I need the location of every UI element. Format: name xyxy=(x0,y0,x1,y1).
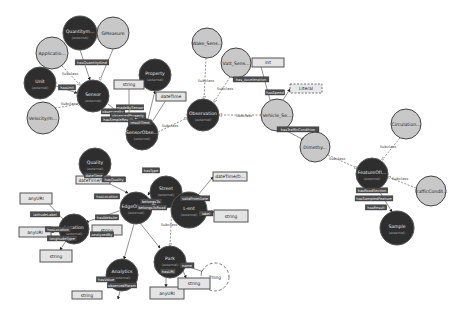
svg-text:Park: Park xyxy=(165,256,175,261)
class-node-vatt-sensor[interactable]: Vatt_Sens... xyxy=(221,48,251,78)
property-label[interactable]: validFromDate xyxy=(180,196,210,201)
svg-text:(external): (external) xyxy=(389,231,406,235)
property-label[interactable]: hasWebsite xyxy=(95,215,119,220)
svg-text:Analytics: Analytics xyxy=(112,269,133,274)
svg-text:belongsToRoad: belongsToRoad xyxy=(139,206,166,210)
svg-text:dateTime: dateTime xyxy=(86,174,104,178)
property-label[interactable]: belongsTo xyxy=(140,199,161,204)
property-label[interactable]: hasSpeed xyxy=(265,90,284,95)
class-node-circulation[interactable]: Circulation... xyxy=(391,109,421,139)
subclass-label: Subclass xyxy=(198,78,215,83)
property-label[interactable]: hasType xyxy=(142,168,159,173)
property-label[interactable]: hasURI xyxy=(160,269,175,274)
property-label[interactable]: belongsToRoad xyxy=(137,205,167,210)
svg-text:madeBySensor: madeBySensor xyxy=(116,106,144,110)
subclass-label: Subclass xyxy=(392,176,409,181)
svg-text:Applicatio...: Applicatio... xyxy=(38,51,65,56)
datatype-string[interactable]: string xyxy=(40,250,72,262)
class-node-gmeasure[interactable]: GMeasure xyxy=(97,17,129,49)
property-label[interactable]: hasSampledFeature xyxy=(355,196,393,201)
class-nodes: Quantitym...(external) GMeasure Applicat… xyxy=(24,16,448,291)
svg-text:hasSpeed: hasSpeed xyxy=(266,91,284,95)
class-node-quantity[interactable]: Quantitym...(external) xyxy=(63,16,97,50)
property-label[interactable]: has_Acceleration xyxy=(233,77,269,82)
property-label[interactable]: hasResult xyxy=(365,205,386,210)
svg-text:Circulation...: Circulation... xyxy=(392,122,421,127)
svg-text:L-ent: L-ent xyxy=(183,206,195,211)
class-node-velocity[interactable]: Velocity/m... xyxy=(27,102,59,134)
svg-text:latitudeLabel: latitudeLabel xyxy=(33,213,56,217)
property-label[interactable]: hasTrafficCondition xyxy=(277,127,319,132)
svg-text:validFromDate: validFromDate xyxy=(182,197,209,201)
svg-text:(external): (external) xyxy=(147,78,164,82)
subclass-labels: Subclass Subclass Subclass Subclass Subc… xyxy=(61,71,409,227)
svg-text:string: string xyxy=(81,293,94,298)
svg-text:(external): (external) xyxy=(66,232,83,236)
datatype-datetime[interactable]: dateTime xyxy=(156,92,186,101)
property-label[interactable]: hasLocation xyxy=(94,194,120,199)
datatype-string[interactable]: string xyxy=(114,80,144,89)
svg-text:label: label xyxy=(202,212,211,216)
datatype-string-event[interactable]: string xyxy=(214,210,248,222)
class-node-feature-of-interest[interactable]: FeatureOfI...(external) xyxy=(356,158,388,190)
svg-text:(external): (external) xyxy=(195,118,212,122)
svg-text:hasSampledFeature: hasSampledFeature xyxy=(356,197,392,201)
class-node-observation[interactable]: Observation(external) xyxy=(187,99,219,131)
property-label[interactable]: name xyxy=(180,263,194,268)
svg-text:FeatureOfI...: FeatureOfI... xyxy=(358,170,386,175)
svg-text:(external): (external) xyxy=(32,86,49,90)
svg-text:anyURI: anyURI xyxy=(27,230,43,235)
class-node-application[interactable]: Applicatio... xyxy=(36,37,68,69)
svg-text:Observation: Observation xyxy=(189,111,217,116)
svg-text:hasQuality: hasQuality xyxy=(104,178,124,182)
property-label[interactable]: hasLocation xyxy=(45,227,71,232)
svg-text:Velocity/m...: Velocity/m... xyxy=(29,116,57,121)
datatype-datetime-event[interactable]: dateTime/D... xyxy=(213,172,247,181)
property-label[interactable]: hasValue xyxy=(96,277,115,282)
property-label[interactable]: analyzedBy xyxy=(90,232,114,237)
property-label[interactable]: hasQuality xyxy=(102,177,126,182)
svg-text:belongsTo: belongsTo xyxy=(142,200,160,204)
class-node-traffic-condition[interactable]: TrafficCondit... xyxy=(413,176,447,206)
ontology-graph[interactable]: Subclass Subclass Subclass Subclass Subc… xyxy=(0,0,461,313)
svg-text:(external): (external) xyxy=(162,263,179,267)
class-node-wake-sensor[interactable]: Wake_Sens... xyxy=(192,28,222,58)
property-label[interactable]: resultTime xyxy=(128,120,152,125)
datatype-int[interactable]: int xyxy=(252,58,284,67)
svg-text:(external): (external) xyxy=(72,36,89,40)
property-label[interactable]: dateTime xyxy=(84,173,103,178)
svg-text:hasURI: hasURI xyxy=(162,270,175,274)
property-label[interactable]: hasRoadSection xyxy=(356,188,388,193)
datatype-string[interactable]: string xyxy=(178,278,210,289)
svg-text:hasValue: hasValue xyxy=(98,278,115,282)
svg-text:hasQuantityKind: hasQuantityKind xyxy=(77,61,107,65)
property-label[interactable]: longitudeType xyxy=(47,236,77,241)
subclass-label: Subclass xyxy=(217,86,234,91)
property-label[interactable]: hasQuantityKind xyxy=(75,60,109,65)
property-label[interactable]: madeBySensor xyxy=(116,105,144,110)
class-node-dimethy[interactable]: Dimethy... xyxy=(300,132,330,162)
class-node-sample[interactable]: Sample(external) xyxy=(380,211,414,245)
svg-text:hasRoadSection: hasRoadSection xyxy=(358,189,387,193)
class-node-vehicle-sensor[interactable]: Vehicle_Se... xyxy=(261,99,293,131)
property-label[interactable]: latitudeLabel xyxy=(30,212,60,217)
svg-text:GMeasure: GMeasure xyxy=(101,31,124,36)
property-label[interactable]: hasUnit xyxy=(58,85,75,90)
property-label[interactable]: observedParam xyxy=(107,283,137,288)
svg-text:Street: Street xyxy=(159,186,173,191)
svg-text:Dimethy...: Dimethy... xyxy=(303,145,326,150)
property-label[interactable]: label xyxy=(199,211,213,216)
datatype-anyuri[interactable]: anyURI xyxy=(20,193,52,204)
datatype-string[interactable]: string xyxy=(72,291,102,299)
svg-text:SensorObse...: SensorObse... xyxy=(126,130,158,135)
datatype-literal[interactable]: Literal xyxy=(290,84,322,93)
subclass-label: Subclass xyxy=(161,222,178,227)
class-node-sensor[interactable]: Sensor(external) xyxy=(77,80,109,112)
subclass-label: Subclass xyxy=(380,144,397,149)
svg-text:hasUnit: hasUnit xyxy=(60,86,74,90)
svg-text:hasResult: hasResult xyxy=(367,206,385,210)
svg-text:observedParam: observedParam xyxy=(108,284,137,288)
svg-text:dateTime: dateTime xyxy=(161,94,182,99)
class-node-unit[interactable]: Unit(external) xyxy=(24,67,56,99)
svg-text:hasWebsite: hasWebsite xyxy=(97,216,118,220)
